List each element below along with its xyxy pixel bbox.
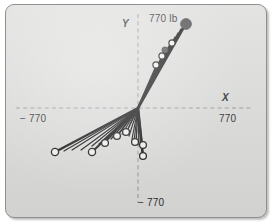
- marker-open: [140, 142, 147, 149]
- upper-right-markers: [153, 19, 192, 69]
- marker-open: [132, 139, 139, 146]
- marker-open: [159, 53, 165, 59]
- marker-open: [123, 129, 130, 136]
- bottom-value-label: − 770: [138, 197, 164, 208]
- plot-canvas: [6, 5, 267, 218]
- marker-open: [102, 140, 109, 147]
- left-value-label: − 770: [20, 113, 46, 124]
- marker-filled: [162, 47, 168, 53]
- marker-open: [140, 153, 147, 160]
- marker-open: [169, 40, 175, 46]
- top-value-label: 770 lb: [149, 13, 177, 24]
- x-axis-label: X: [222, 92, 229, 103]
- axes-group: [16, 14, 252, 203]
- plot-panel: Y 770 lb X 770 − 770 − 770: [5, 4, 267, 218]
- right-value-label: 770: [219, 113, 236, 124]
- marker-filled-large: [181, 19, 192, 30]
- marker-open: [114, 133, 121, 140]
- y-axis-label: Y: [122, 18, 129, 29]
- upper-right-rays: [138, 25, 185, 108]
- marker-open: [88, 148, 95, 155]
- marker-open: [153, 62, 159, 68]
- force-vector-figure: Y 770 lb X 770 − 770 − 770: [0, 0, 273, 224]
- marker-open: [51, 148, 58, 155]
